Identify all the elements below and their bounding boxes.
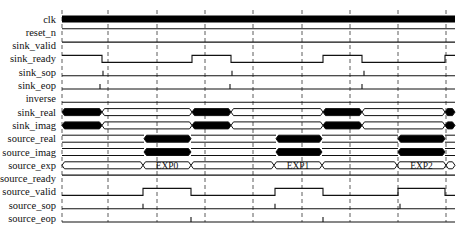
bus-busy-segment (276, 149, 322, 156)
bus-idle-segment (102, 122, 192, 129)
signal-label-source-exp: source_exp (8, 160, 56, 171)
signal-trace-source-exp: EXP0EXP1EXP2 (62, 161, 455, 171)
bus-value-label: EXP2 (410, 161, 433, 171)
signal-trace-source-real (62, 135, 455, 142)
bus-value-label: EXP0 (156, 161, 179, 171)
bus-busy-segment (323, 122, 362, 129)
signal-label-sink-sop: sink_sop (19, 67, 56, 78)
bus-busy-segment (192, 109, 231, 116)
signal-label-sink-valid: sink_valid (12, 40, 56, 51)
bus-idle-segment (362, 109, 445, 116)
bus-busy-segment (398, 149, 445, 156)
signal-trace-sink-eop (62, 84, 455, 89)
signal-traces: EXP0EXP1EXP2 (62, 16, 455, 223)
bus-idle-segment (62, 162, 143, 169)
bus-busy-segment (398, 135, 445, 142)
signal-label-sink-real: sink_real (18, 107, 57, 118)
signal-trace-source-eop (62, 217, 455, 222)
signal-label-source-sop: source_sop (9, 200, 56, 211)
bus-idle-segment (322, 162, 397, 169)
bus-idle-segment (231, 109, 323, 116)
bus-idle-segment (362, 122, 445, 129)
signal-label-source-valid: source_valid (2, 186, 56, 197)
bus-value-label: EXP1 (287, 161, 310, 171)
bus-busy-segment (62, 122, 102, 129)
signal-label-sink-eop: sink_eop (18, 80, 56, 91)
signal-labels: clkreset_nsink_validsink_readysink_sopsi… (0, 14, 57, 225)
signal-label-clk: clk (43, 14, 57, 25)
signal-label-sink-imag: sink_imag (12, 120, 56, 131)
bus-busy-segment (62, 109, 102, 116)
signal-trace-sink-ready (62, 55, 455, 62)
signal-trace-sink-real (62, 109, 455, 116)
bus-busy-segment (445, 109, 455, 116)
signal-label-inverse: inverse (26, 93, 57, 104)
signal-label-reset-n: reset_n (26, 27, 57, 38)
signal-label-sink-ready: sink_ready (10, 53, 57, 64)
bus-idle-segment (231, 122, 323, 129)
signal-label-source-real: source_real (8, 133, 56, 144)
timing-diagram: clkreset_nsink_validsink_readysink_sopsi… (0, 0, 465, 235)
signal-label-source-imag: source_imag (2, 147, 56, 158)
bus-idle-segment (191, 162, 274, 169)
signal-label-source-ready: source_ready (0, 173, 57, 184)
signal-label-source-eop: source_eop (8, 213, 56, 224)
bus-busy-segment (144, 135, 191, 142)
bus-busy-segment (323, 109, 362, 116)
bus-idle-segment (446, 162, 455, 169)
signal-trace-sink-imag (62, 122, 455, 129)
signal-trace-source-imag (62, 149, 455, 156)
bus-idle-segment (102, 109, 192, 116)
signal-trace-source-valid (62, 188, 455, 195)
bus-busy-segment (144, 149, 191, 156)
bus-busy-segment (445, 122, 455, 129)
signal-trace-sink-sop (62, 71, 455, 76)
bus-busy-segment (276, 135, 322, 142)
signal-trace-source-sop (62, 204, 455, 209)
bus-busy-segment (192, 122, 231, 129)
signal-trace-clk (62, 16, 455, 23)
